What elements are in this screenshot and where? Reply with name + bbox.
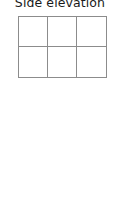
grid-cell [48,17,77,47]
grid-cell [19,47,48,77]
grid-cell [77,47,106,77]
grid-cell [19,17,48,47]
grid-cell [48,47,77,77]
diagram-title: Side elevation [0,0,120,11]
side-elevation-grid [18,16,107,78]
grid-cell [77,17,106,47]
